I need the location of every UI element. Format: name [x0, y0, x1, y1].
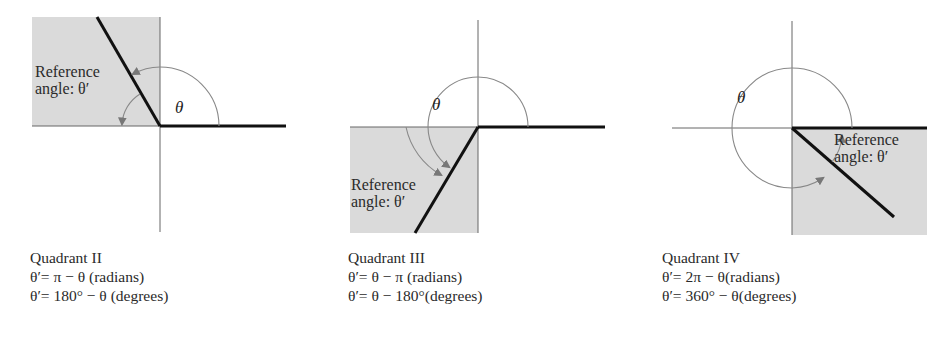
theta-label: θ	[432, 95, 440, 115]
caption: Quadrant IV θ′= 2π − θ(radians) θ′= 360°…	[662, 248, 796, 305]
reference-angle-label: Reference angle: θ′	[35, 63, 100, 97]
formula-degrees: θ′= 360° − θ(degrees)	[662, 286, 796, 305]
caption: Quadrant III θ′= θ − π (radians) θ′= θ −…	[348, 248, 482, 305]
quadrant-title: Quadrant II	[30, 248, 168, 267]
figure-quadrant-iii: Reference angle: θ′ θ Quadrant III θ′= θ…	[320, 0, 640, 337]
reference-angle-label: Reference angle: θ′	[351, 176, 416, 210]
formula-radians: θ′= θ − π (radians)	[348, 267, 482, 286]
formula-degrees: θ′= 180° − θ (degrees)	[30, 286, 168, 305]
caption: Quadrant II θ′= π − θ (radians) θ′= 180°…	[30, 248, 168, 305]
quadrant-ii-diagram	[0, 0, 320, 240]
theta-label: θ	[737, 88, 745, 108]
formula-degrees: θ′= θ − 180°(degrees)	[348, 286, 482, 305]
formula-radians: θ′= 2π − θ(radians)	[662, 267, 796, 286]
theta-label: θ	[175, 98, 183, 118]
quadrant-title: Quadrant IV	[662, 248, 796, 267]
quadrant-iv-diagram	[640, 0, 951, 240]
formula-radians: θ′= π − θ (radians)	[30, 267, 168, 286]
figure-quadrant-ii: Reference angle: θ′ θ Quadrant II θ′= π …	[0, 0, 320, 337]
quadrant-title: Quadrant III	[348, 248, 482, 267]
figure-quadrant-iv: Reference angle: θ′ θ Quadrant IV θ′= 2π…	[640, 0, 951, 337]
reference-angle-label: Reference angle: θ′	[834, 131, 899, 165]
